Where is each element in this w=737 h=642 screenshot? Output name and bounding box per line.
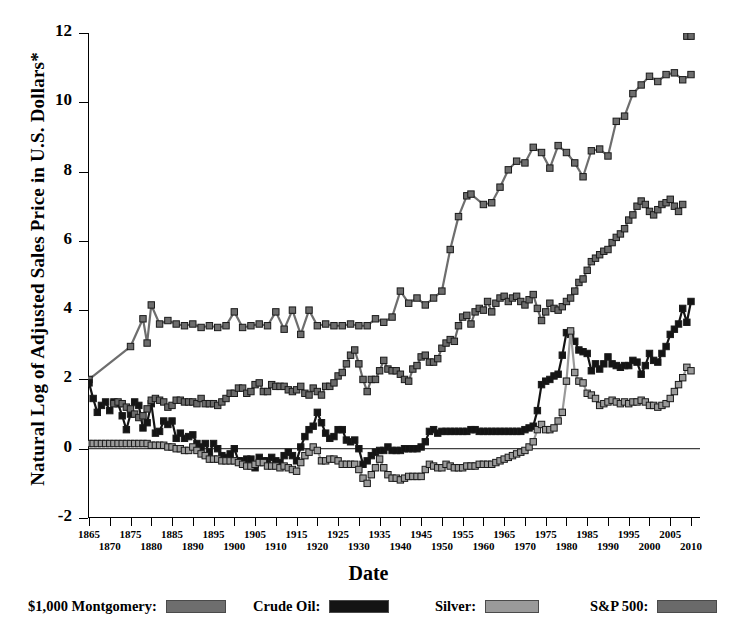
data-point <box>314 323 320 329</box>
data-point <box>248 388 254 394</box>
x-tick <box>649 518 650 526</box>
data-point <box>198 324 204 330</box>
series-2 <box>88 328 694 487</box>
data-point <box>119 413 125 419</box>
x-tick <box>483 518 484 526</box>
x-tick <box>525 518 526 526</box>
x-tick <box>234 518 235 526</box>
data-point <box>256 321 262 327</box>
x-tick <box>504 518 505 526</box>
data-point <box>455 213 461 219</box>
y-tick <box>79 518 88 519</box>
data-point <box>356 446 362 452</box>
data-point <box>659 350 665 356</box>
data-point <box>136 402 142 408</box>
data-point <box>513 158 519 164</box>
data-point <box>352 347 358 353</box>
data-point <box>372 465 378 471</box>
data-point <box>169 418 175 424</box>
data-point <box>318 420 324 426</box>
data-point <box>559 352 565 358</box>
data-point <box>231 446 237 452</box>
data-point <box>584 267 590 273</box>
x-tick-label: 2010 <box>661 540 721 552</box>
data-point <box>314 447 320 453</box>
data-point <box>293 468 299 474</box>
data-point <box>273 309 279 315</box>
data-point <box>534 407 540 413</box>
legend-item[interactable]: Silver: <box>435 598 539 615</box>
x-tick <box>587 518 588 526</box>
data-point <box>215 446 221 452</box>
legend-label: S&P 500: <box>590 598 648 615</box>
y-tick <box>79 33 88 34</box>
legend-item[interactable]: S&P 500: <box>590 598 717 615</box>
data-point <box>580 276 586 282</box>
data-point <box>173 321 179 327</box>
legend-item[interactable]: $1,000 Montgomery: <box>28 598 226 615</box>
data-point <box>555 142 561 148</box>
data-point <box>356 466 362 472</box>
x-tick <box>421 518 422 526</box>
data-point <box>322 321 328 327</box>
data-point <box>123 426 129 432</box>
data-point <box>356 323 362 329</box>
data-point <box>547 165 553 171</box>
y-tick <box>79 310 88 311</box>
y-tick <box>79 172 88 173</box>
data-point <box>464 312 470 318</box>
data-point <box>414 295 420 301</box>
data-point <box>580 174 586 180</box>
data-point <box>680 201 686 207</box>
data-point <box>655 359 661 365</box>
data-point <box>430 295 436 301</box>
data-point <box>572 369 578 375</box>
data-point <box>675 208 681 214</box>
data-point <box>567 328 573 334</box>
data-point <box>368 472 374 478</box>
data-point <box>405 300 411 306</box>
y-tick <box>79 102 88 103</box>
data-point <box>356 361 362 367</box>
data-point <box>331 380 337 386</box>
data-point <box>642 201 648 207</box>
data-point <box>522 160 528 166</box>
legend-color-swatch <box>657 600 717 613</box>
data-point <box>289 307 295 313</box>
data-point <box>223 323 229 329</box>
x-tick <box>255 518 256 526</box>
y-tick-label: 8 <box>10 160 72 180</box>
data-point <box>655 78 661 84</box>
data-point <box>102 399 108 405</box>
data-point <box>538 149 544 155</box>
data-point <box>422 439 428 445</box>
legend-label: Crude Oil: <box>253 598 320 615</box>
data-point <box>88 380 92 386</box>
data-point <box>181 323 187 329</box>
y-tick-label: 6 <box>10 229 72 249</box>
legend-item[interactable]: Crude Oil: <box>253 598 389 615</box>
data-point <box>156 321 162 327</box>
data-point <box>372 316 378 322</box>
data-point <box>94 409 100 415</box>
data-point <box>563 378 569 384</box>
data-point <box>144 406 150 412</box>
data-point <box>264 323 270 329</box>
data-point <box>588 148 594 154</box>
data-point <box>331 323 337 329</box>
x-tick <box>629 518 630 526</box>
data-point <box>310 423 316 429</box>
chart-figure: Natural Log of Adjusted Sales Price in U… <box>0 0 737 642</box>
data-point <box>542 309 548 315</box>
data-point <box>339 323 345 329</box>
x-tick <box>338 518 339 526</box>
data-point <box>584 350 590 356</box>
x-tick <box>110 518 111 526</box>
data-point <box>314 409 320 415</box>
legend-color-swatch <box>485 600 539 613</box>
x-axis-title: Date <box>0 562 737 585</box>
data-point <box>339 426 345 432</box>
x-tick <box>380 518 381 526</box>
data-point <box>422 302 428 308</box>
data-point <box>530 439 536 445</box>
